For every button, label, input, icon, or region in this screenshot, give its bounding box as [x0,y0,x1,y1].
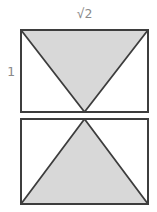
bottom-shaded-triangle [21,119,148,204]
unit-height-label: 1 [7,64,15,79]
geometry-figure: √2 1 [0,0,157,212]
sqrt2-width-label: √2 [77,6,93,21]
top-shaded-triangle [21,30,148,112]
figure-canvas: √2 1 [0,0,157,212]
